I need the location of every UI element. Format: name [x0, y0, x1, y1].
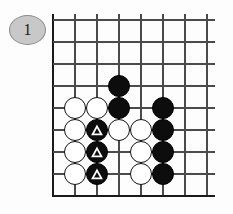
go-stone-black[interactable] [86, 119, 108, 141]
go-stone-white[interactable] [108, 119, 130, 141]
go-stone-black[interactable] [152, 97, 174, 119]
go-stone-white[interactable] [130, 141, 152, 163]
triangle-mark-icon [93, 148, 102, 156]
go-stone-white[interactable] [64, 119, 86, 141]
go-stone-white[interactable] [64, 97, 86, 119]
triangle-mark-icon [93, 126, 102, 134]
go-stone-black[interactable] [86, 163, 108, 185]
diagram-number-badge: 1 [9, 15, 46, 45]
go-stone-black[interactable] [152, 163, 174, 185]
go-stone-black[interactable] [152, 141, 174, 163]
go-stone-black[interactable] [152, 119, 174, 141]
diagram-number-label: 1 [9, 15, 46, 45]
stone-marker [87, 143, 107, 163]
stone-marker [87, 165, 107, 185]
go-diagram: 1 [0, 0, 233, 214]
triangle-mark-icon [93, 170, 102, 178]
go-stone-white[interactable] [130, 119, 152, 141]
go-stone-white[interactable] [64, 141, 86, 163]
go-stone-black[interactable] [108, 75, 130, 97]
go-stone-white[interactable] [64, 163, 86, 185]
go-stone-black[interactable] [108, 97, 130, 119]
go-stone-black[interactable] [86, 141, 108, 163]
stone-marker [87, 121, 107, 141]
go-stone-white[interactable] [130, 163, 152, 185]
go-stone-white[interactable] [86, 97, 108, 119]
